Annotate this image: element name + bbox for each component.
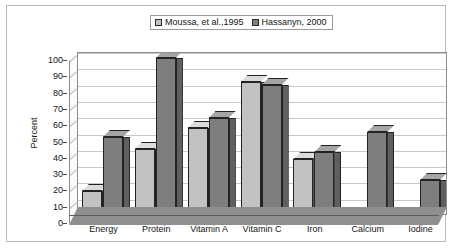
x-axis-labels: EnergyProteinVitamin AVitamin CIronCalci… <box>69 225 447 241</box>
y-tick-mark <box>63 223 67 224</box>
bar-side <box>123 137 130 214</box>
bar-face <box>188 128 208 214</box>
y-axis-ticks: 1009080706050403020100 <box>37 52 63 224</box>
y-tick-mark <box>63 207 67 208</box>
side-wall-tick <box>70 137 77 144</box>
y-tick-label: 50 <box>41 138 63 147</box>
plot-wrapper <box>69 52 447 224</box>
side-wall-tick <box>70 169 77 176</box>
y-tick-label: 0 <box>41 219 63 228</box>
gridline <box>78 53 446 54</box>
bar-vitamin-c-series1 <box>241 82 261 214</box>
legend-entry-series2: Hassanyn, 2000 <box>252 18 327 27</box>
bar-side <box>387 132 394 214</box>
y-tick-label: 90 <box>41 72 63 81</box>
y-tick-label: 70 <box>41 105 63 114</box>
legend-swatch-series1-icon <box>155 19 162 26</box>
y-tick-label: 30 <box>41 170 63 179</box>
bar-top <box>209 111 236 118</box>
bar-face <box>209 118 229 214</box>
bar-face <box>135 149 155 214</box>
side-wall-tick <box>70 55 77 62</box>
side-wall-tick <box>70 202 77 209</box>
y-tick-mark <box>63 93 67 94</box>
y-tick-label: 60 <box>41 121 63 130</box>
x-label-iodine: Iodine <box>380 225 454 234</box>
bar-protein-series1 <box>135 149 155 214</box>
legend-label-series1: Moussa, et al.,1995 <box>165 18 244 27</box>
bar-vitamin-a-series1 <box>188 128 208 214</box>
bar-top <box>367 125 394 132</box>
bar-face <box>241 82 261 214</box>
bar-top <box>420 173 447 180</box>
y-tick-mark <box>63 174 67 175</box>
y-tick-label: 100 <box>41 56 63 65</box>
bar-energy-series2 <box>103 137 123 214</box>
bar-face <box>156 58 176 214</box>
y-tick-mark <box>63 190 67 191</box>
side-wall-tick <box>70 153 77 160</box>
y-tick-mark <box>63 142 67 143</box>
y-tick-label: 40 <box>41 154 63 163</box>
bar-protein-series2 <box>156 58 176 214</box>
bar-side <box>334 152 341 214</box>
bar-vitamin-c-series2 <box>262 85 282 214</box>
bar-iron-series2 <box>314 152 334 214</box>
bar-face <box>293 159 313 214</box>
bar-top <box>262 78 289 85</box>
y-tick-label: 10 <box>41 203 63 212</box>
plot-area <box>77 52 447 215</box>
bar-face <box>262 85 282 214</box>
y-tick-mark <box>63 158 67 159</box>
gridline <box>78 69 446 70</box>
y-tick-mark <box>63 109 67 110</box>
y-tick-mark <box>63 60 67 61</box>
bar-vitamin-a-series2 <box>209 118 229 214</box>
side-wall-tick <box>70 120 77 127</box>
bar-top <box>241 75 268 82</box>
bar-face <box>103 137 123 214</box>
bar-side <box>282 85 289 214</box>
y-tick-mark <box>63 125 67 126</box>
chart-container: Moussa, et al.,1995 Hassanyn, 2000 Perce… <box>6 5 446 242</box>
bar-face <box>367 132 387 214</box>
bar-calcium-series2 <box>367 132 387 214</box>
side-wall-tick <box>70 104 77 111</box>
bar-iron-series1 <box>293 159 313 214</box>
y-tick-mark <box>63 76 67 77</box>
side-wall-tick <box>70 185 77 192</box>
legend-swatch-series2-icon <box>252 19 259 26</box>
plot-floor <box>69 207 447 225</box>
bar-face <box>314 152 334 214</box>
plot-floor-edge <box>69 215 439 216</box>
bar-side <box>229 118 236 214</box>
bar-side <box>176 58 183 214</box>
y-tick-label: 80 <box>41 89 63 98</box>
chart-legend: Moussa, et al.,1995 Hassanyn, 2000 <box>150 15 333 30</box>
y-tick-label: 20 <box>41 186 63 195</box>
legend-entry-series1: Moussa, et al.,1995 <box>155 18 244 27</box>
side-wall-tick <box>70 88 77 95</box>
legend-label-series2: Hassanyn, 2000 <box>262 18 327 27</box>
side-wall-tick <box>70 71 77 78</box>
